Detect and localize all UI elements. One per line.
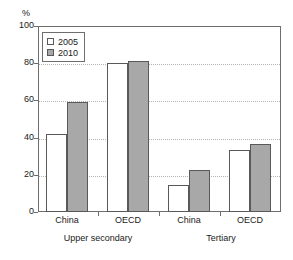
x-axis-category-labels: China OECD China OECD: [38, 215, 281, 229]
bar-upper-secondary-china-2005: [46, 134, 67, 212]
y-axis-unit-label: %: [22, 8, 30, 18]
x-axis-group-labels: Upper secondary Tertiary: [38, 233, 281, 247]
legend: 2005 2010: [42, 32, 85, 62]
bar-tertiary-oecd-2010: [250, 144, 271, 212]
y-tick-mark-0: [34, 212, 38, 213]
bar-tertiary-china-2005: [168, 185, 189, 212]
x-category-label-1: OECD: [103, 215, 153, 226]
x-category-label-2: China: [164, 215, 214, 226]
legend-item-2010: 2010: [47, 47, 78, 58]
bar-upper-secondary-oecd-2010: [128, 61, 149, 212]
bar-chart: % 100 80 60 40 20 0: [0, 0, 293, 260]
x-group-label-tertiary: Tertiary: [161, 233, 281, 244]
x-category-label-3: OECD: [225, 215, 275, 226]
legend-label-2005: 2005: [58, 37, 78, 47]
x-category-label-0: China: [42, 215, 92, 226]
legend-label-2010: 2010: [58, 48, 78, 58]
bar-upper-secondary-oecd-2005: [107, 63, 128, 212]
y-axis-tick-marks: [0, 26, 38, 212]
bar-tertiary-oecd-2005: [229, 150, 250, 212]
x-group-label-upper-secondary: Upper secondary: [38, 233, 158, 244]
legend-swatch-icon-2010: [47, 49, 54, 56]
legend-item-2005: 2005: [47, 36, 78, 47]
bar-tertiary-china-2010: [189, 170, 210, 212]
bar-upper-secondary-china-2010: [67, 102, 88, 212]
legend-swatch-icon-2005: [47, 38, 54, 45]
